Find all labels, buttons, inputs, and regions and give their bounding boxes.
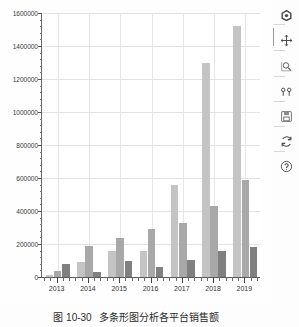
y-tick-minor	[40, 165, 43, 166]
navigation-toolbar[interactable]	[272, 0, 299, 327]
x-tick-label: 2018	[205, 285, 221, 292]
x-tick-minor	[238, 277, 239, 281]
x-tick-label: 2015	[111, 285, 127, 292]
y-tick-minor	[40, 185, 43, 186]
y-tick-minor	[40, 191, 43, 192]
bar	[179, 223, 187, 277]
x-tick-minor	[226, 277, 227, 281]
y-tick-major	[38, 145, 42, 146]
save-figure-icon[interactable]	[276, 106, 296, 126]
toolbar-separator	[274, 76, 285, 77]
x-tick-minor	[63, 277, 64, 281]
y-tick-minor	[40, 152, 43, 153]
bar	[156, 267, 164, 277]
x-tick-major	[88, 277, 89, 283]
x-tick-minor	[232, 277, 233, 281]
y-tick-label: 600000	[16, 175, 38, 182]
y-tick-minor	[40, 66, 43, 67]
grid-line-vertical	[89, 13, 90, 277]
home-icon[interactable]	[276, 5, 296, 25]
x-tick-minor	[194, 277, 195, 281]
x-tick-minor	[44, 277, 45, 281]
x-tick-minor	[107, 277, 108, 281]
y-tick-minor	[40, 251, 43, 252]
plot-area	[42, 13, 260, 277]
y-tick-major	[38, 244, 42, 245]
y-tick-major	[38, 79, 42, 80]
x-tick-major	[151, 277, 152, 283]
zoom-rect-icon[interactable]	[276, 56, 296, 76]
x-tick-major	[119, 277, 120, 283]
matplotlib-figure: 0200000400000600000800000100000012000001…	[0, 0, 299, 327]
x-tick-label: 2013	[49, 285, 65, 292]
grid-line-vertical	[58, 13, 59, 277]
y-axis-tick-labels: 0200000400000600000800000100000012000001…	[0, 0, 41, 277]
y-tick-minor	[40, 237, 43, 238]
x-tick-minor	[157, 277, 158, 281]
y-tick-minor	[40, 138, 43, 139]
x-tick-minor	[82, 277, 83, 281]
bar	[77, 262, 85, 277]
y-tick-label: 800000	[16, 142, 38, 149]
x-tick-major	[244, 277, 245, 283]
bar	[85, 246, 93, 277]
x-tick-label: 2016	[143, 285, 159, 292]
y-tick-minor	[40, 33, 43, 34]
refresh-icon[interactable]	[276, 131, 296, 151]
y-tick-minor	[40, 92, 43, 93]
y-tick-minor	[40, 39, 43, 40]
x-tick-minor	[169, 277, 170, 281]
toolbar-active-indicator	[273, 28, 274, 46]
y-tick-minor	[40, 198, 43, 199]
y-tick-minor	[40, 270, 43, 271]
y-tick-minor	[40, 171, 43, 172]
y-tick-minor	[40, 204, 43, 205]
y-tick-minor	[40, 218, 43, 219]
x-tick-label: 2014	[80, 285, 96, 292]
y-tick-label: 1200000	[13, 76, 38, 83]
x-tick-minor	[188, 277, 189, 281]
y-tick-minor	[40, 53, 43, 54]
y-tick-minor	[40, 72, 43, 73]
x-tick-minor	[50, 277, 51, 281]
x-tick-minor	[69, 277, 70, 281]
bar	[62, 264, 70, 277]
plot-axes[interactable]	[41, 13, 260, 277]
y-tick-minor	[40, 125, 43, 126]
x-tick-minor	[144, 277, 145, 281]
bar	[148, 229, 156, 277]
y-tick-minor	[40, 26, 43, 27]
x-tick-major	[57, 277, 58, 283]
x-tick-minor	[201, 277, 202, 281]
x-tick-minor	[251, 277, 252, 281]
bar	[202, 63, 210, 278]
help-icon[interactable]	[276, 156, 296, 176]
y-tick-minor	[40, 99, 43, 100]
y-tick-minor	[40, 132, 43, 133]
y-tick-minor	[40, 224, 43, 225]
bar	[210, 206, 218, 277]
x-tick-major	[213, 277, 214, 283]
x-tick-label: 2017	[174, 285, 190, 292]
bar	[108, 251, 116, 277]
x-tick-minor	[125, 277, 126, 281]
y-tick-minor	[40, 158, 43, 159]
y-tick-label: 200000	[16, 241, 38, 248]
chart-canvas[interactable]: 0200000400000600000800000100000012000001…	[0, 0, 272, 305]
x-tick-minor	[207, 277, 208, 281]
y-tick-major	[38, 211, 42, 212]
toolbar-separator	[274, 126, 285, 127]
y-tick-major	[38, 178, 42, 179]
y-tick-label: 1400000	[13, 43, 38, 50]
y-tick-label: 1600000	[13, 10, 38, 17]
x-tick-minor	[138, 277, 139, 281]
y-tick-minor	[40, 20, 43, 21]
move-icon[interactable]	[276, 30, 296, 50]
toolbar-separator	[274, 151, 285, 152]
configure-subplots-icon[interactable]	[276, 81, 296, 101]
y-tick-minor	[40, 231, 43, 232]
x-tick-minor	[257, 277, 258, 281]
x-tick-major	[182, 277, 183, 283]
bar	[125, 261, 133, 277]
x-axis-tick-labels: 2013201420152016201720182019	[41, 285, 260, 297]
